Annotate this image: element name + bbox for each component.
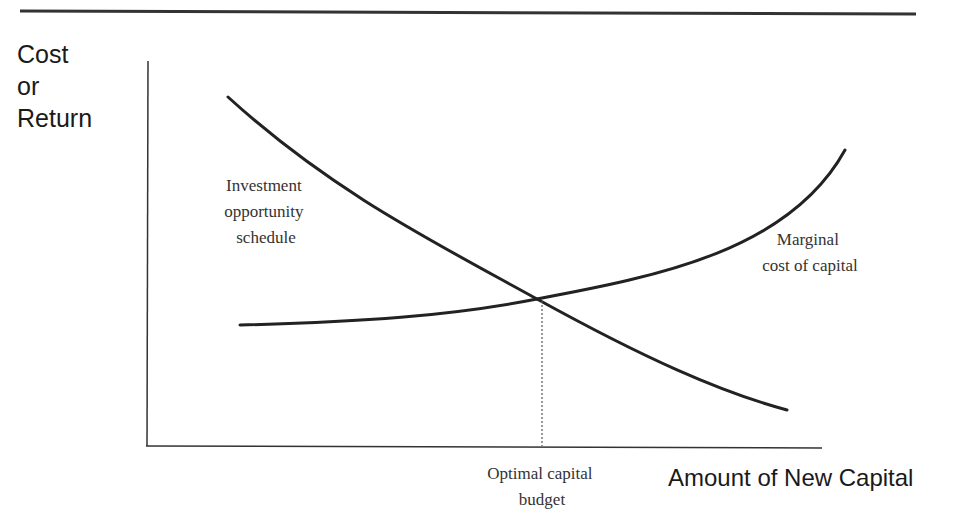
intersection-point xyxy=(536,298,539,301)
mcc-label-line-1: Marginal xyxy=(777,230,839,249)
mcc-label-line-2: cost of capital xyxy=(762,256,858,275)
y-axis-label-line-3: Return xyxy=(17,104,92,132)
investment-label-line-1: Investment xyxy=(226,176,302,195)
mcc-curve-label: Marginal cost of capital xyxy=(762,230,858,275)
y-axis-label-line-1: Cost xyxy=(17,40,68,68)
investment-opportunity-curve xyxy=(228,97,787,410)
y-axis-label: Cost or Return xyxy=(17,40,92,132)
investment-label-line-3: schedule xyxy=(236,228,295,247)
capital-budget-diagram: Cost or Return Investment opportunity sc… xyxy=(0,0,961,528)
investment-curve-label: Investment opportunity schedule xyxy=(224,176,308,247)
top-rule xyxy=(20,11,916,14)
optimal-budget-line-1: Optimal capital xyxy=(487,464,593,483)
x-axis xyxy=(146,446,822,448)
y-axis xyxy=(147,61,148,446)
optimal-budget-line-2: budget xyxy=(519,490,566,509)
x-axis-label: Amount of New Capital xyxy=(668,464,913,491)
optimal-budget-label: Optimal capital budget xyxy=(487,464,597,509)
y-axis-label-line-2: or xyxy=(17,72,39,100)
investment-label-line-2: opportunity xyxy=(224,202,304,221)
marginal-cost-of-capital-curve xyxy=(240,150,845,325)
